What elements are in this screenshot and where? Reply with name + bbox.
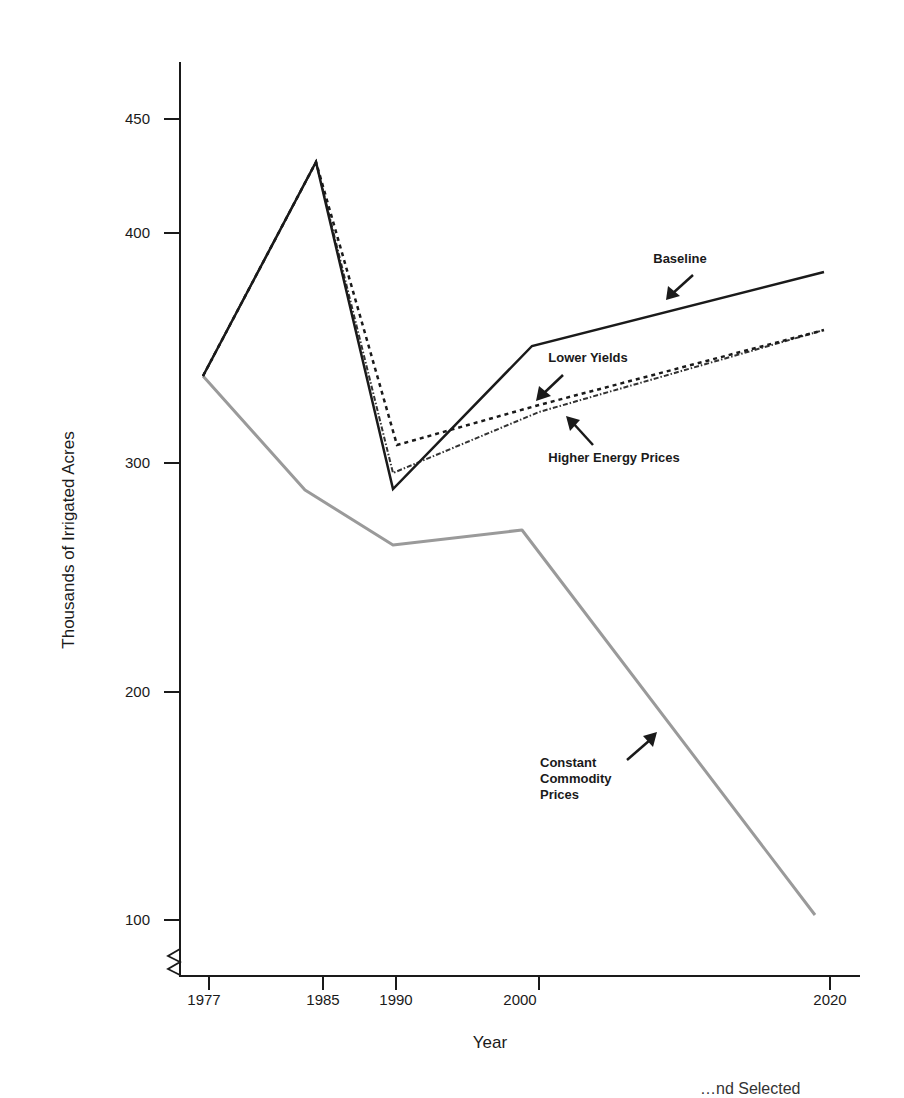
svg-text:Baseline: Baseline bbox=[653, 251, 706, 266]
svg-text:Higher Energy Prices: Higher Energy Prices bbox=[548, 450, 680, 465]
x-tick-label: 2020 bbox=[813, 991, 846, 1008]
y-tick-label: 200 bbox=[125, 683, 150, 700]
svg-text:Prices: Prices bbox=[540, 787, 579, 802]
annotation-higher-energy-prices: Higher Energy Prices bbox=[548, 416, 680, 465]
x-ticks: 1977 1985 1990 2000 2020 bbox=[187, 976, 846, 1008]
series-constant-commodity-prices bbox=[203, 376, 815, 915]
x-tick-label: 1977 bbox=[187, 991, 220, 1008]
x-tick-label: 2000 bbox=[503, 991, 536, 1008]
x-tick-label: 1985 bbox=[306, 991, 339, 1008]
y-ticks: 450 400 300 200 100 bbox=[125, 110, 180, 928]
y-tick-label: 300 bbox=[125, 454, 150, 471]
footer-text-fragment: …nd Selected bbox=[700, 1080, 801, 1098]
svg-text:Constant: Constant bbox=[540, 755, 597, 770]
y-axis-title: Thousands of Irrigated Acres bbox=[59, 431, 78, 648]
svg-text:Commodity: Commodity bbox=[540, 771, 612, 786]
y-tick-label: 400 bbox=[125, 224, 150, 241]
axis-break-icon bbox=[168, 949, 180, 975]
svg-text:Lower Yields: Lower Yields bbox=[548, 350, 627, 365]
annotation-baseline: Baseline bbox=[653, 251, 706, 300]
annotation-constant-commodity-prices: Constant Commodity Prices bbox=[540, 732, 657, 802]
series-lower-yields bbox=[203, 162, 824, 445]
series-baseline bbox=[203, 162, 824, 489]
y-tick-label: 450 bbox=[125, 110, 150, 127]
series-higher-energy-prices bbox=[203, 162, 824, 473]
x-axis-title: Year bbox=[473, 1033, 508, 1052]
x-tick-label: 1990 bbox=[379, 991, 412, 1008]
y-tick-label: 100 bbox=[125, 911, 150, 928]
